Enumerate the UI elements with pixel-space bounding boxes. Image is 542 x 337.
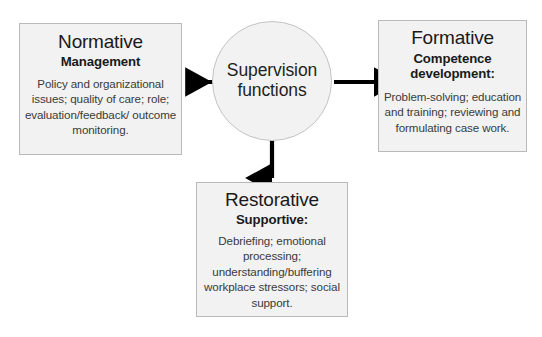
node-formative-body: Problem-solving; education and training;… [379, 89, 526, 135]
node-normative-body: Policy and organizational issues; qualit… [20, 76, 181, 138]
node-normative-subtitle: Management [20, 54, 181, 69]
node-supervision-functions: Supervision functions [212, 21, 332, 141]
supervision-functions-diagram: Normative Management Policy and organiza… [0, 0, 542, 337]
node-center-label-line2: functions [227, 81, 317, 101]
node-normative: Normative Management Policy and organiza… [19, 23, 182, 155]
node-center-label-line1: Supervision [227, 61, 317, 81]
node-restorative: Restorative Supportive: Debriefing; emot… [196, 182, 348, 317]
node-restorative-title: Restorative [197, 190, 347, 211]
node-normative-title: Normative [20, 32, 181, 53]
node-formative-subtitle: Competence development: [379, 51, 526, 81]
node-restorative-subtitle: Supportive: [197, 212, 347, 227]
node-center-label: Supervision functions [227, 61, 317, 101]
node-restorative-body: Debriefing; emotional processing; unders… [197, 233, 347, 310]
node-formative-title: Formative [379, 28, 526, 49]
node-formative: Formative Competence development: Proble… [378, 20, 527, 152]
